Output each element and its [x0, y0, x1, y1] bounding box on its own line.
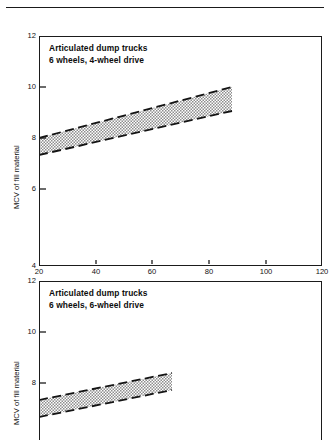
caption-line-2: 6 wheels, 6-wheel drive	[49, 300, 148, 312]
ytick-label-8: 8	[20, 134, 36, 142]
ytick-label-6: 6	[20, 185, 36, 193]
ytick-label-12: 12	[20, 277, 36, 285]
caption-line-2: 6 wheels, 4-wheel drive	[49, 55, 148, 67]
chart-figure-2: Articulated dump trucks 6 wheels, 6-whee…	[0, 273, 332, 440]
top-horizontal-rule	[6, 7, 324, 8]
plot-area-1	[39, 36, 322, 266]
ytick-label-8: 8	[20, 379, 36, 387]
caption-line-1: Articulated dump trucks	[49, 288, 148, 300]
chart-2-caption: Articulated dump trucks 6 wheels, 6-whee…	[49, 288, 148, 311]
ytick-label-10: 10	[20, 328, 36, 336]
caption-line-1: Articulated dump trucks	[49, 43, 148, 55]
y-axis-title-1: MCV of fill material	[12, 145, 21, 209]
ytick-label-12: 12	[20, 32, 36, 40]
y-axis-title-2: MCV of fill material	[12, 361, 21, 425]
figure-page: Articulated dump trucks 6 wheels, 4-whee…	[0, 0, 332, 440]
ytick-label-10: 10	[20, 83, 36, 91]
chart-1-caption: Articulated dump trucks 6 wheels, 4-whee…	[49, 43, 148, 66]
chart-figure-1: Articulated dump trucks 6 wheels, 4-whee…	[0, 14, 332, 264]
